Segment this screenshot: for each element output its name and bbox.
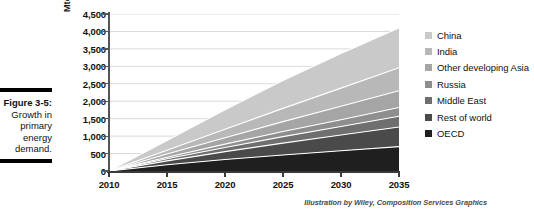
figure-description: Growth in primary energy demand.	[0, 109, 52, 155]
y-axis-tick-mark	[103, 31, 109, 32]
x-axis-tick-mark	[398, 172, 399, 177]
x-axis-tick-label: 2015	[157, 179, 178, 190]
legend-swatch-icon	[425, 32, 432, 39]
legend-swatch-icon	[425, 48, 432, 55]
y-axis-tick-mark	[103, 136, 109, 137]
stacked-area-plot	[109, 14, 399, 171]
legend-swatch-icon	[425, 130, 432, 137]
legend-item: Russia	[425, 76, 534, 92]
x-axis-tick-label: 2025	[273, 179, 294, 190]
legend-label: India	[437, 46, 457, 57]
chart-legend: ChinaIndiaOther developing AsiaRussiaMid…	[425, 27, 534, 142]
legend-label: China	[437, 30, 462, 41]
figure-number-label: Figure 3-5:	[0, 97, 52, 109]
y-axis-tick-mark	[103, 83, 109, 84]
y-axis-tick-mark	[103, 101, 109, 102]
legend-item: OECD	[425, 125, 534, 141]
illustration-attribution: Illustration by Wiley, Composition Servi…	[0, 198, 487, 207]
legend-label: OECD	[437, 128, 464, 139]
x-axis-tick-mark	[166, 172, 167, 177]
figure-caption-block: Figure 3-5: Growth in primary energy dem…	[0, 88, 52, 163]
chart-figure: Mtoe 05001,0001,5002,0002,5003,0003,5004…	[60, 0, 490, 214]
legend-item: China	[425, 27, 534, 43]
caption-rule-top	[0, 88, 52, 92]
legend-swatch-icon	[425, 81, 432, 88]
legend-label: Rest of world	[437, 112, 492, 123]
legend-item: Middle East	[425, 93, 534, 109]
x-axis-tick-mark	[224, 172, 225, 177]
legend-swatch-icon	[425, 114, 432, 121]
x-axis-tick-label: 2010	[99, 179, 120, 190]
stacked-area-svg	[109, 14, 399, 171]
x-axis-tick-mark	[282, 172, 283, 177]
x-axis-tick-label: 2020	[215, 179, 236, 190]
x-axis-tick-label: 2035	[389, 179, 410, 190]
legend-swatch-icon	[425, 64, 432, 71]
y-axis-tick-mark	[103, 153, 109, 154]
caption-text: Figure 3-5: Growth in primary energy dem…	[0, 97, 52, 155]
legend-item: India	[425, 43, 534, 59]
legend-item: Other developing Asia	[425, 60, 534, 76]
y-axis-tick-mark	[103, 118, 109, 119]
legend-label: Russia	[437, 79, 466, 90]
caption-rule-bottom	[0, 159, 52, 163]
y-axis-line	[108, 12, 110, 173]
y-axis-tick-mark	[103, 13, 109, 14]
x-axis-tick-mark	[340, 172, 341, 177]
y-axis-tick-mark	[103, 48, 109, 49]
legend-label: Other developing Asia	[437, 62, 529, 73]
x-axis-tick-mark	[108, 172, 109, 177]
legend-label: Middle East	[437, 95, 486, 106]
y-axis-tick-mark	[103, 66, 109, 67]
legend-item: Rest of world	[425, 109, 534, 125]
legend-swatch-icon	[425, 97, 432, 104]
x-axis-tick-label: 2030	[331, 179, 352, 190]
x-axis-line	[107, 171, 400, 173]
